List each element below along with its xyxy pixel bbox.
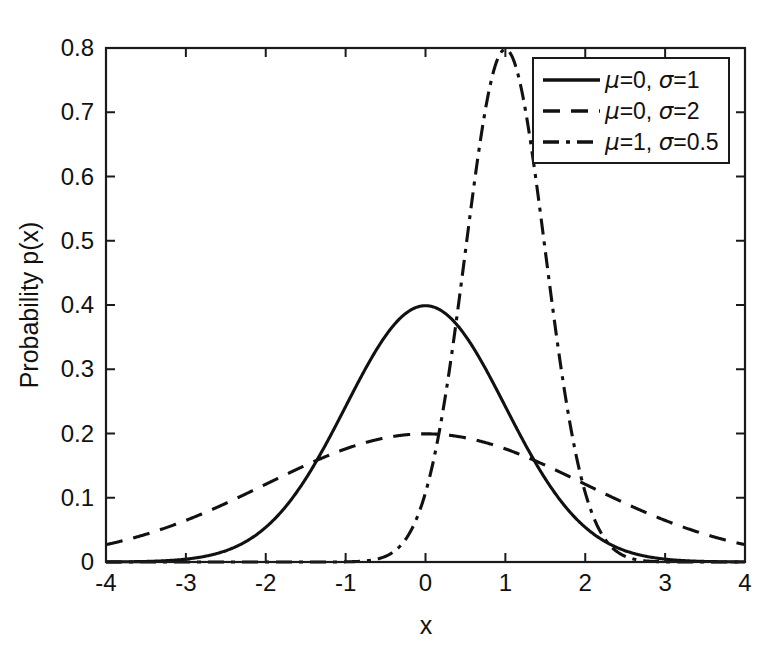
x-tick-label-4: 0 (419, 569, 432, 596)
y-tick-label-5: 0.5 (61, 227, 94, 254)
y-tick-label-7: 0.7 (61, 98, 94, 125)
curve-series-1 (106, 434, 745, 545)
legend-label-2[interactable]: μ=1, σ=0.5 (604, 129, 719, 155)
y-tick-label-0: 0 (81, 548, 94, 575)
x-tick-label-7: 3 (658, 569, 671, 596)
y-tick-label-3: 0.3 (61, 355, 94, 382)
y-tick-label-1: 0.1 (61, 484, 94, 511)
y-tick-label-2: 0.2 (61, 420, 94, 447)
y-tick-label-6: 0.6 (61, 163, 94, 190)
legend-label-0[interactable]: μ=0, σ=1 (604, 67, 699, 93)
x-tick-label-3: -1 (335, 569, 356, 596)
chart-figure: -4-3-2-10123400.10.20.30.40.50.60.70.8 P… (0, 0, 783, 658)
x-tick-label-0: -4 (95, 569, 116, 596)
y-axis-title: Probability p(x) (15, 222, 43, 389)
x-tick-label-6: 2 (579, 569, 592, 596)
chart-legend[interactable]: μ=0, σ=1μ=0, σ=2μ=1, σ=0.5 (533, 58, 729, 163)
x-tick-label-2: -2 (255, 569, 276, 596)
legend-label-1[interactable]: μ=0, σ=2 (604, 98, 699, 124)
y-tick-label-4: 0.4 (61, 291, 94, 318)
gaussian-pdf-chart: -4-3-2-10123400.10.20.30.40.50.60.70.8 P… (0, 0, 783, 658)
x-tick-label-1: -3 (175, 569, 196, 596)
x-tick-label-8: 4 (738, 569, 751, 596)
x-tick-label-5: 1 (499, 569, 512, 596)
y-tick-label-8: 0.8 (61, 34, 94, 61)
x-axis-title: x (420, 611, 433, 639)
